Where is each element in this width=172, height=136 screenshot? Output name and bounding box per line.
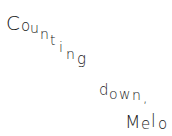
handwritten-glyph: M <box>125 113 141 131</box>
handwritten-glyph: , <box>143 90 147 104</box>
handwritten-glyph: l <box>151 113 156 130</box>
handwritten-glyph: d <box>99 83 109 98</box>
handwritten-glyph: n <box>66 47 75 61</box>
handwritten-glyph: w <box>119 87 130 101</box>
handwritten-glyph: u <box>30 21 39 35</box>
handwritten-glyph: o <box>158 117 167 132</box>
handwritten-glyph: C <box>6 13 20 33</box>
handwritten-glyph: n <box>132 88 141 102</box>
handwritten-glyph: o <box>21 19 30 34</box>
handwritten-glyph: n <box>40 27 49 41</box>
handwritten-glyph: i <box>59 40 63 54</box>
handwritten-glyph: t <box>50 33 56 47</box>
handwritten-note-canvas: Countingdown, Melo Counting down, Melo <box>0 0 172 136</box>
handwritten-glyph: o <box>109 87 118 101</box>
handwritten-glyph: g <box>77 52 86 67</box>
handwritten-glyph: e <box>141 117 150 132</box>
